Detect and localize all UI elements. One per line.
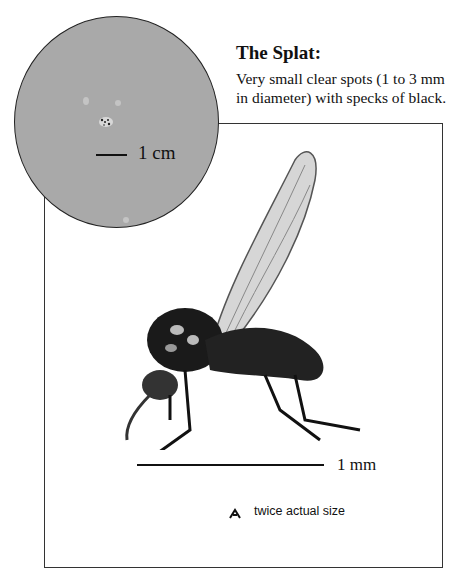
clear-spot [123, 217, 129, 223]
description-line: in diameter) with specks of black. [236, 88, 456, 107]
clear-spot [115, 100, 121, 106]
clear-spot [83, 97, 89, 105]
twice-actual-size-label: twice actual size [254, 504, 345, 518]
splat-description: Very small clear spots (1 to 3 mm in dia… [236, 69, 456, 107]
mm-scale-bar [137, 464, 324, 466]
splat-magnified-inset: 1 cm [14, 16, 219, 228]
splat-icon [98, 116, 114, 128]
splat-title: The Splat: [236, 42, 321, 64]
tiny-fly-icon [228, 508, 242, 520]
cm-scale-label: 1 cm [138, 142, 175, 164]
description-line: Very small clear spots (1 to 3 mm [236, 69, 456, 88]
mm-scale-label: 1 mm [337, 455, 376, 475]
cm-scale-bar [96, 154, 127, 156]
